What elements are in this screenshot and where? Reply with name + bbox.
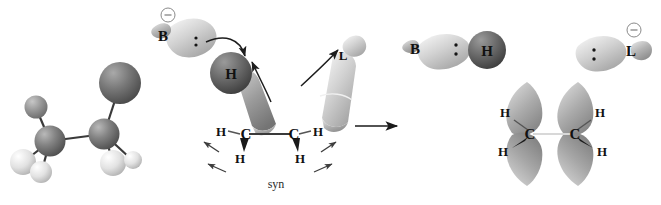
sphere-hydrogen-4 — [124, 151, 142, 169]
transition-h-label-3: H — [313, 124, 323, 139]
alkene-h-label-3: H — [595, 105, 605, 120]
carbon-right-label: C — [289, 126, 300, 142]
figure-canvas: B H L — [0, 0, 661, 205]
transition-h-label-2: H — [235, 151, 245, 166]
motion-arrow-1 — [204, 142, 219, 152]
motion-arrow-2 — [208, 164, 226, 172]
base-lone-pair-dot-2 — [194, 43, 197, 46]
base-lobe-major — [166, 18, 217, 57]
product-alkene: C C H H H H — [498, 82, 607, 186]
product-base-lobe — [418, 34, 471, 69]
sphere-hydrogen-2 — [30, 161, 52, 183]
transition-h-label-1: H — [216, 124, 226, 139]
alkene-h-label-2: H — [498, 144, 508, 159]
base-orbital: B — [151, 8, 216, 57]
bond-c-left-h-side — [228, 131, 240, 134]
transition-h-label-4: H — [295, 151, 305, 166]
motion-arrow-3 — [321, 142, 336, 152]
caption-syn: syn — [268, 177, 285, 191]
alkene-carbon-left-label: C — [525, 126, 536, 142]
sphere-carbon-right — [89, 119, 120, 150]
product-conjugate-acid: B H — [402, 31, 506, 70]
alkene-h-label-4: H — [597, 144, 607, 159]
base-lone-pair-dot-1 — [194, 36, 197, 39]
product-leaving-group: L — [576, 23, 652, 72]
leaving-group-lone-dot-1 — [592, 48, 595, 51]
product-base-label-B: B — [410, 41, 420, 57]
motion-arrow-4 — [314, 164, 332, 172]
leaving-group-label-L: L — [339, 48, 348, 63]
sphere-hydrogen-3 — [100, 150, 126, 176]
hydrogen-transfer-label: H — [225, 66, 237, 82]
leaving-group-product-lobe — [576, 36, 627, 71]
ball-and-stick-reactant — [10, 62, 142, 183]
sphere-hydrogen-upper — [25, 96, 48, 119]
leaving-group-product-label-L: L — [626, 43, 636, 59]
base-label-B: B — [158, 28, 168, 44]
orbital-lobe-right — [322, 52, 356, 127]
product-hydrogen-label: H — [481, 43, 493, 59]
transition-state: B H L — [151, 8, 366, 191]
diagram-svg: B H L — [0, 0, 661, 205]
leaving-group-lone-dot-2 — [592, 57, 595, 60]
carbon-left-label: C — [241, 126, 252, 142]
product-base-lone-dot-1 — [454, 43, 457, 46]
sphere-leaving-group — [99, 62, 141, 104]
alkene-h-label-1: H — [500, 105, 510, 120]
alkene-carbon-right-label: C — [570, 126, 581, 142]
bond-c-right-h-side — [299, 131, 311, 134]
product-base-lone-dot-2 — [454, 52, 457, 55]
sphere-carbon-left — [35, 126, 66, 157]
